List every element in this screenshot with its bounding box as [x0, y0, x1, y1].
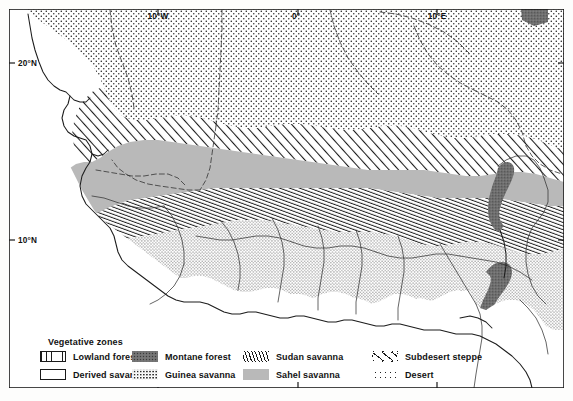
legend-swatch-lowland-forest	[40, 351, 66, 362]
vegetative-zones-figure: 10°W 0° 10°E 20°N 10°N Vegetative zones …	[0, 0, 573, 401]
legend-swatch-derived-savanna	[40, 369, 66, 380]
legend-item-lowland-forest[interactable]: Lowland forest	[40, 351, 138, 362]
axis-label-left-10n: 10°N	[18, 236, 37, 245]
axis-label-top-10w: 10°W	[148, 12, 169, 21]
axis-label-top-0: 0°	[292, 12, 300, 21]
legend-item-guinea-savanna[interactable]: Guinea savanna	[132, 369, 235, 380]
legend-swatch-guinea-savanna	[132, 369, 158, 380]
legend-title: Vegetative zones	[48, 337, 123, 347]
legend-label-guinea-savanna: Guinea savanna	[165, 370, 235, 380]
legend-swatch-subdesert-steppe	[372, 351, 398, 362]
legend-item-sahel-savanna[interactable]: Sahel savanna	[243, 369, 340, 380]
legend-item-montane-forest[interactable]: Montane forest	[132, 351, 231, 362]
axis-label-left-20n: 20°N	[18, 59, 37, 68]
legend-item-sudan-savanna[interactable]: Sudan savanna	[243, 351, 343, 362]
legend-swatch-montane-forest	[132, 351, 158, 362]
legend-label-lowland-forest: Lowland forest	[73, 352, 138, 362]
legend-swatch-desert	[372, 369, 398, 380]
legend-swatch-sudan-savanna	[243, 351, 269, 362]
legend-label-montane-forest: Montane forest	[165, 352, 231, 362]
legend-label-desert: Desert	[405, 370, 434, 380]
legend-label-subdesert-steppe: Subdesert steppe	[405, 352, 482, 362]
axis-label-top-10e: 10°E	[428, 12, 447, 21]
legend-item-derived-savanna[interactable]: Derived savanna	[40, 369, 146, 380]
legend-swatch-sahel-savanna	[243, 369, 269, 380]
map-body: 10°W 0° 10°E 20°N 10°N	[9, 9, 564, 388]
legend-item-subdesert-steppe[interactable]: Subdesert steppe	[372, 351, 482, 362]
legend-item-desert[interactable]: Desert	[372, 369, 434, 380]
legend-label-sudan-savanna: Sudan savanna	[276, 352, 343, 362]
legend-label-sahel-savanna: Sahel savanna	[276, 370, 340, 380]
